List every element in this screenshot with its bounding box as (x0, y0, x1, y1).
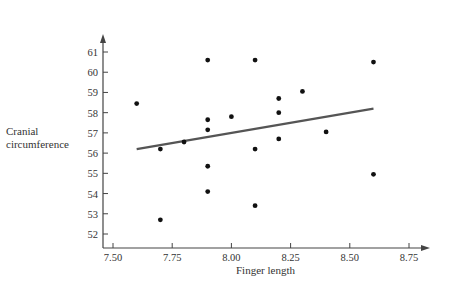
data-point (205, 127, 210, 132)
regression-line (137, 109, 374, 149)
x-ticks: 7.507.758.008.258.508.75 (104, 243, 418, 263)
data-point (158, 217, 163, 222)
y-tick-label: 56 (88, 148, 99, 159)
data-point (253, 58, 258, 63)
y-tick-label: 58 (88, 108, 99, 119)
data-point (134, 101, 139, 106)
data-point (371, 172, 376, 177)
data-point (253, 203, 258, 208)
data-point (205, 164, 210, 169)
y-tick-label: 61 (88, 47, 99, 58)
x-tick-label: 8.25 (281, 252, 299, 263)
data-point (276, 110, 281, 115)
x-tick-label: 7.75 (163, 252, 181, 263)
data-point (371, 60, 376, 65)
y-axis-label-line-2: circumference (6, 138, 69, 151)
y-tick-label: 60 (88, 67, 99, 78)
x-tick-label: 8.50 (341, 252, 359, 263)
data-point (229, 114, 234, 119)
data-point (276, 137, 281, 142)
x-tick-label: 7.50 (104, 252, 122, 263)
regression-line-path (137, 109, 374, 149)
x-tick-label: 8.00 (222, 252, 240, 263)
data-points (134, 58, 376, 223)
y-tick-label: 52 (88, 229, 99, 240)
data-point (205, 117, 210, 122)
data-point (205, 189, 210, 194)
data-point (276, 96, 281, 101)
data-point (182, 140, 187, 145)
axes (100, 34, 430, 251)
y-axis-arrow-icon (100, 34, 106, 43)
x-axis-label: Finger length (236, 264, 295, 276)
data-point (205, 58, 210, 63)
x-axis-arrow-icon (421, 245, 430, 251)
y-tick-label: 55 (88, 168, 99, 179)
y-tick-label: 57 (88, 128, 99, 139)
x-tick-label: 8.75 (400, 252, 418, 263)
y-tick-label: 54 (88, 189, 99, 200)
data-point (300, 89, 305, 94)
data-point (324, 129, 329, 134)
data-point (253, 147, 258, 152)
y-axis-label-line-1: Cranial (6, 125, 69, 138)
y-ticks: 52535455565758596061 (88, 47, 109, 240)
y-tick-label: 59 (88, 87, 99, 98)
data-point (158, 147, 163, 152)
y-axis-label: Cranial circumference (6, 125, 69, 151)
y-tick-label: 53 (88, 209, 99, 220)
